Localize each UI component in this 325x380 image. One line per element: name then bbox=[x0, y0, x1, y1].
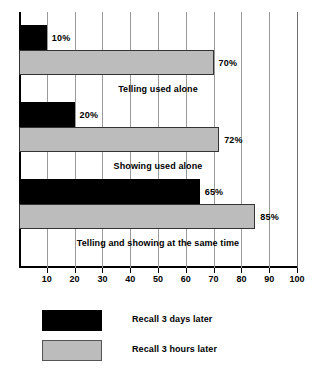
bar-light bbox=[19, 204, 255, 229]
category-caption-row: Telling used alone bbox=[19, 75, 297, 102]
axis-tick-10 bbox=[47, 268, 48, 273]
bar-dark bbox=[19, 102, 75, 127]
axis-tick-label-10: 10 bbox=[42, 274, 52, 284]
axis-tick-label-90: 90 bbox=[264, 274, 274, 284]
axis-tick-30 bbox=[102, 268, 103, 273]
axis-tick-label-30: 30 bbox=[97, 274, 107, 284]
axis-tick-90 bbox=[269, 268, 270, 273]
bar-row-dark: 10% bbox=[19, 25, 297, 50]
axis-tick-40 bbox=[130, 268, 131, 273]
legend-swatch-light bbox=[42, 340, 102, 361]
bar-value-label: 85% bbox=[260, 212, 279, 222]
bar-light bbox=[19, 127, 219, 152]
legend-label-dark: Recall 3 days later bbox=[132, 314, 212, 324]
axis-tick-label-70: 70 bbox=[209, 274, 219, 284]
gridline-100 bbox=[297, 12, 298, 268]
legend-label-light: Recall 3 hours later bbox=[132, 344, 217, 354]
axis-tick-100 bbox=[297, 268, 298, 273]
bar-row-dark: 20% bbox=[19, 102, 297, 127]
legend-swatch-dark bbox=[42, 310, 102, 331]
chart-legend: Recall 3 days later Recall 3 hours later bbox=[42, 308, 302, 368]
x-axis: 102030405060708090100 bbox=[19, 268, 297, 290]
bar-value-label: 72% bbox=[224, 135, 243, 145]
axis-tick-50 bbox=[158, 268, 159, 273]
bar-row-light: 70% bbox=[19, 50, 297, 75]
bar-value-label: 10% bbox=[52, 33, 71, 43]
axis-tick-label-60: 60 bbox=[181, 274, 191, 284]
legend-item: Recall 3 hours later bbox=[42, 338, 302, 368]
legend-item: Recall 3 days later bbox=[42, 308, 302, 338]
category-caption-row: Telling and showing at the same time bbox=[19, 229, 297, 256]
axis-tick-60 bbox=[186, 268, 187, 273]
bar-dark bbox=[19, 179, 200, 204]
axis-tick-70 bbox=[214, 268, 215, 273]
bar-value-label: 20% bbox=[80, 110, 99, 120]
recall-retention-bar-chart: 10%70%Telling used alone20%72%Showing us… bbox=[0, 0, 325, 380]
category-label: Telling used alone bbox=[19, 84, 297, 94]
bar-rows: 10%70%Telling used alone20%72%Showing us… bbox=[19, 12, 297, 268]
category-label: Telling and showing at the same time bbox=[19, 238, 297, 248]
bar-light bbox=[19, 50, 214, 75]
axis-tick-80 bbox=[241, 268, 242, 273]
category-label: Showing used alone bbox=[19, 161, 297, 171]
axis-tick-label-20: 20 bbox=[70, 274, 80, 284]
plot-area: 10%70%Telling used alone20%72%Showing us… bbox=[19, 12, 297, 268]
bar-row-dark: 65% bbox=[19, 179, 297, 204]
axis-tick-20 bbox=[75, 268, 76, 273]
bar-dark bbox=[19, 25, 47, 50]
axis-tick-label-80: 80 bbox=[236, 274, 246, 284]
bar-value-label: 70% bbox=[219, 58, 238, 68]
axis-tick-label-100: 100 bbox=[289, 274, 304, 284]
bar-row-light: 85% bbox=[19, 204, 297, 229]
axis-tick-label-50: 50 bbox=[153, 274, 163, 284]
category-caption-row: Showing used alone bbox=[19, 152, 297, 179]
bar-value-label: 65% bbox=[205, 187, 224, 197]
bar-row-light: 72% bbox=[19, 127, 297, 152]
axis-tick-label-40: 40 bbox=[125, 274, 135, 284]
